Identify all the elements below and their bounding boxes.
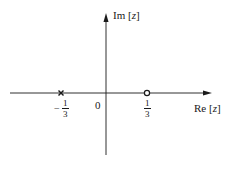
imag-label-prefix: Im [	[113, 9, 132, 21]
pole-position-label: 1 3	[62, 99, 69, 119]
pole-numerator: 1	[62, 99, 69, 109]
zero-position-label: 1 3	[144, 99, 151, 119]
real-axis-label: Re [z]	[194, 103, 221, 114]
real-axis-arrow-icon	[203, 91, 212, 96]
real-label-prefix: Re [	[194, 102, 213, 114]
real-label-suffix: ]	[217, 102, 221, 114]
pole-denominator: 3	[63, 109, 68, 119]
zero-numerator: 1	[144, 99, 151, 109]
pole-zero-plot	[0, 0, 226, 175]
zero-marker-icon	[144, 90, 149, 95]
imag-label-suffix: ]	[136, 9, 140, 21]
imag-axis-label: Im [z]	[113, 10, 140, 21]
pole-sign: −	[54, 104, 60, 114]
origin-label: 0	[95, 100, 101, 111]
zero-denominator: 3	[145, 109, 150, 119]
imag-axis-arrow-icon	[104, 13, 109, 22]
